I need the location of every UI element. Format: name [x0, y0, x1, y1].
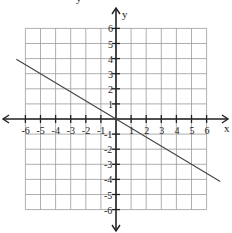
y-tick-label: 6	[108, 23, 113, 34]
x-tick-label: 4	[174, 125, 179, 136]
y-tick-label: -3	[104, 159, 112, 170]
y-tick-label: 1	[108, 99, 113, 110]
x-tick-label: 5	[190, 125, 195, 136]
x-tick-label: -3	[67, 125, 75, 136]
x-tick-label: 1	[129, 125, 134, 136]
y-tick-label: 3	[108, 69, 113, 80]
y-tick-label: -4	[104, 174, 112, 185]
y-tick-label: 5	[108, 39, 113, 50]
x-axis-label: x	[224, 122, 230, 134]
y-tick-label: 4	[108, 54, 113, 65]
x-tick-label: -6	[21, 125, 29, 136]
x-tick-label: -4	[52, 125, 60, 136]
x-tick-label: 2	[144, 125, 149, 136]
partial-top-label: y	[76, 0, 82, 4]
y-tick-label: -2	[104, 144, 112, 155]
x-tick-label: 6	[205, 125, 210, 136]
y-tick-label: -5	[104, 190, 112, 201]
tick-labels: -6-5-4-3-2-1123456654321-1-2-3-4-5-6xy	[21, 8, 230, 216]
x-tick-label: 3	[159, 125, 164, 136]
y-tick-label: -1	[104, 129, 112, 140]
y-axis-label: y	[122, 8, 128, 20]
y-tick-label: -6	[104, 205, 112, 216]
x-tick-label: -5	[37, 125, 45, 136]
x-tick-label: -2	[82, 125, 90, 136]
plotted-line	[16, 59, 220, 181]
coordinate-plane: y -6-5-4-3-2-1123456654321-1-2-3-4-5-6xy	[0, 0, 232, 233]
series-line	[16, 59, 220, 181]
axes	[3, 8, 228, 231]
y-tick-label: 2	[108, 84, 113, 95]
